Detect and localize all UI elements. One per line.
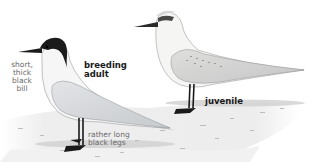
sand-ground (0, 100, 305, 163)
breeding-adult-label: breeding adult (84, 61, 127, 79)
bill-annotation: short, thick black bill (8, 61, 36, 93)
bill-annotation-line: bill (8, 85, 36, 93)
juvenile-bill (134, 22, 158, 27)
legs-annotation-line: black legs (88, 139, 130, 147)
legs-annotation: rather long black legs (88, 131, 130, 147)
short-thick-black-bill (18, 48, 42, 53)
juvenile-label: juvenile (205, 97, 243, 106)
tern-illustration (0, 0, 316, 162)
juvenile-label-line: juvenile (205, 97, 243, 106)
breeding-adult-label-line: adult (84, 70, 127, 79)
